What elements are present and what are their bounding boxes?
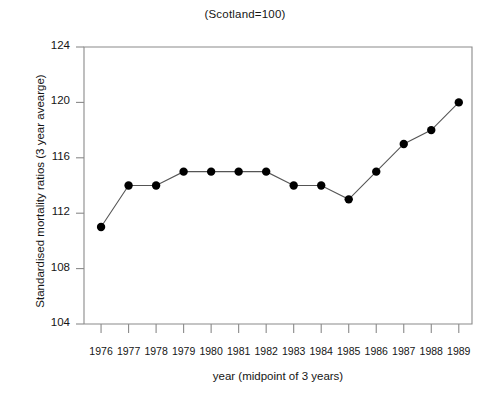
data-point-1989 [455, 98, 463, 106]
data-point-1977 [124, 181, 132, 189]
data-point-1983 [289, 181, 297, 189]
data-point-1985 [345, 195, 353, 203]
chart-figure: (Scotland=100) Standardised mortality ra… [0, 0, 490, 397]
data-point-1988 [427, 126, 435, 134]
x-tick-marks [101, 324, 459, 333]
data-point-1976 [97, 223, 105, 231]
data-point-1986 [372, 167, 380, 175]
y-tick-marks [76, 47, 84, 324]
data-point-1984 [317, 181, 325, 189]
data-point-1980 [207, 167, 215, 175]
series-line [101, 102, 459, 227]
plot-area [0, 0, 490, 397]
data-point-1982 [262, 167, 270, 175]
data-point-1987 [400, 140, 408, 148]
data-point-1981 [234, 167, 242, 175]
series-markers [97, 98, 463, 231]
data-point-1979 [179, 167, 187, 175]
data-point-1978 [152, 181, 160, 189]
